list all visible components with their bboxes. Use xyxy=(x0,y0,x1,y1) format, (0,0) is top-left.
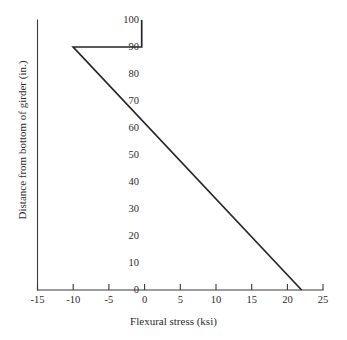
y-tick-label-10: 10 xyxy=(129,258,140,269)
y-axis-title: Distance from bottom of girder (in.) xyxy=(16,0,32,290)
y-tick-label-0: 0 xyxy=(134,285,139,296)
y-tick-label-50: 50 xyxy=(129,150,140,161)
x-axis-title: Flexural stress (ksi) xyxy=(0,315,347,327)
x-tick-label-25: 25 xyxy=(318,295,329,306)
x-tick-label--10: -10 xyxy=(66,295,80,306)
y-tick-label-90: 90 xyxy=(129,42,140,53)
y-tick-label-40: 40 xyxy=(129,177,140,188)
x-tick-label--5: -5 xyxy=(105,295,114,306)
x-tick-label-0: 0 xyxy=(142,295,147,306)
y-tick-label-80: 80 xyxy=(129,69,140,80)
x-tick-label-10: 10 xyxy=(211,295,222,306)
y-tick-label-30: 30 xyxy=(129,204,140,215)
y-tick-label-20: 20 xyxy=(129,231,140,242)
x-tick-label-5: 5 xyxy=(178,295,183,306)
x-tick-label-20: 20 xyxy=(282,295,293,306)
y-tick-label-100: 100 xyxy=(123,15,139,26)
y-tick-label-60: 60 xyxy=(129,123,140,134)
x-tick-label-15: 15 xyxy=(246,295,257,306)
x-axis-ticks xyxy=(38,284,324,290)
x-tick-label--15: -15 xyxy=(31,295,45,306)
plot-area xyxy=(0,0,347,340)
flexural-stress-chart: -15 -10 -5 0 5 10 15 20 25 0 10 20 30 40… xyxy=(0,0,347,340)
stress-distribution-line xyxy=(73,20,301,290)
y-tick-label-70: 70 xyxy=(129,96,140,107)
